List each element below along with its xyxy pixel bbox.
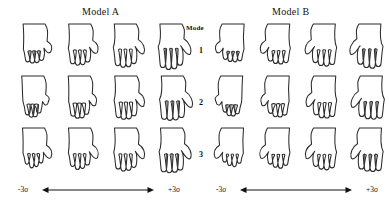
hand-outline-b-mode2-col2 — [254, 72, 302, 126]
hand-outline-a-mode3-col1 — [10, 124, 58, 178]
hand-outline-b-mode1-col2 — [254, 20, 302, 74]
hand-outline-b-mode1-col4 — [346, 20, 389, 74]
double-arrow-icon-a — [42, 184, 154, 196]
hand-outline-a-mode2-col1 — [10, 72, 58, 126]
panel-title-model-b: Model B — [272, 6, 309, 17]
hand-outline-a-mode3-col3 — [102, 124, 150, 178]
hand-outline-b-mode3-col1 — [208, 124, 256, 178]
hand-outline-a-mode1-col3 — [102, 20, 150, 74]
mode-number-2: 2 — [196, 98, 206, 107]
hand-outline-a-mode1-col1 — [10, 20, 58, 74]
hand-outline-b-mode3-col2 — [254, 124, 302, 178]
hand-outline-a-mode2-col4 — [148, 72, 196, 126]
panel-title-model-a: Model A — [82, 6, 119, 17]
mode-number-3: 3 — [196, 150, 206, 159]
hand-outline-b-mode2-col4 — [346, 72, 389, 126]
sigma-axis-model-a: -3σ +3σ — [18, 184, 180, 198]
hand-outline-a-mode3-col2 — [56, 124, 104, 178]
hand-outline-b-mode2-col3 — [300, 72, 348, 126]
hand-outline-a-mode2-col2 — [56, 72, 104, 126]
hand-outline-b-mode2-col1 — [208, 72, 256, 126]
hand-outline-a-mode1-col4 — [148, 20, 196, 74]
sigma-axis-model-b: -3σ +3σ — [216, 184, 378, 198]
shape-model-figure: Model A Model B Mode 1 2 3 -3σ +3σ -3σ +… — [0, 0, 389, 208]
axis-low-label-a: -3σ — [18, 185, 28, 194]
mode-number-1: 1 — [196, 46, 206, 55]
axis-low-label-b: -3σ — [216, 185, 226, 194]
double-arrow-icon-b — [240, 184, 352, 196]
hand-outline-b-mode1-col3 — [300, 20, 348, 74]
hand-outline-a-mode2-col3 — [102, 72, 150, 126]
axis-high-label-b: +3σ — [366, 185, 378, 194]
hand-outline-a-mode1-col2 — [56, 20, 104, 74]
hand-outline-a-mode3-col4 — [148, 124, 196, 178]
axis-high-label-a: +3σ — [168, 185, 180, 194]
hand-outline-b-mode3-col4 — [346, 124, 389, 178]
hand-outline-b-mode3-col3 — [300, 124, 348, 178]
hand-outline-b-mode1-col1 — [208, 20, 256, 74]
